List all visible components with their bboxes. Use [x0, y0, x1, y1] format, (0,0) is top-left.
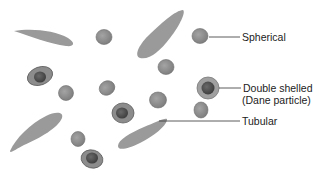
- dane-particle: [112, 103, 134, 123]
- label-double-shelled: Double shelled: [243, 82, 312, 94]
- dane-particle-labeled: [197, 77, 219, 99]
- tubular-particle: [14, 30, 73, 46]
- tubular-particle: [137, 10, 184, 58]
- spherical-particle: [192, 29, 208, 44]
- spherical-particle: [194, 102, 208, 118]
- spherical-particle: [158, 60, 174, 75]
- spherical-particle: [71, 132, 85, 147]
- spherical-particle: [150, 92, 167, 108]
- label-dane-particle: (Dane particle): [242, 94, 311, 106]
- tubular-particle: [118, 119, 167, 149]
- dane-particle: [25, 63, 56, 89]
- dane-particle: [79, 147, 105, 170]
- label-spherical: Spherical: [242, 31, 286, 43]
- tubular-particle: [10, 113, 62, 152]
- spherical-particle: [97, 78, 118, 98]
- spherical-particle: [59, 86, 74, 101]
- spherical-particle: [96, 30, 112, 45]
- label-tubular: Tubular: [242, 115, 277, 127]
